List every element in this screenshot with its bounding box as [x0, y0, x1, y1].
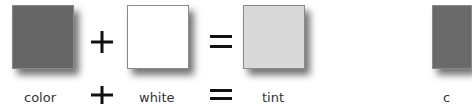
color-swatch-2: [432, 5, 472, 69]
color-label-2: c: [443, 90, 450, 105]
plus-operator-label-row: [91, 86, 113, 104]
white-swatch: [127, 5, 189, 69]
equals-operator-label-row: [210, 89, 232, 100]
white-label: white: [139, 90, 175, 105]
tint-label: tint: [262, 90, 284, 105]
tint-swatch: [243, 5, 305, 69]
color-label: color: [24, 90, 56, 105]
plus-operator: [91, 31, 113, 53]
color-swatch: [12, 5, 74, 69]
equals-operator: [210, 35, 232, 48]
